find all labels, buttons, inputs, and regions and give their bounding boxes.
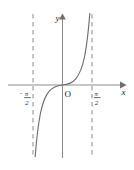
origin-label: O — [65, 89, 72, 99]
left-asymptote-minus-sign: − — [20, 90, 24, 97]
tangent-function-figure: y x O − π 2 π 2 — [0, 0, 134, 170]
x-axis-label: x — [121, 87, 126, 97]
y-axis-label: y — [55, 13, 60, 23]
tangent-plot-svg: y x O − π 2 π 2 — [0, 0, 134, 170]
